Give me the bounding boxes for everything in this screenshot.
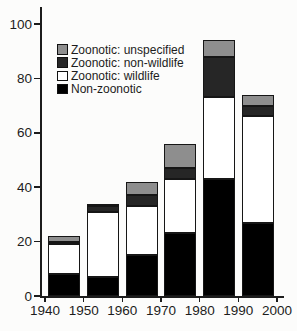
x-tick-label-1980: 1980 bbox=[180, 304, 220, 318]
bar-segment-1970s-zoonotic-wildlife bbox=[164, 179, 196, 233]
bar-segment-1970s-zoonotic-non-wildlife bbox=[164, 168, 196, 179]
y-tick-mark-100 bbox=[34, 23, 40, 25]
legend-item-zoonotic-unspecified: Zoonotic: unspecified bbox=[57, 44, 184, 55]
bar-segment-1960s-zoonotic-wildlife bbox=[126, 206, 158, 255]
bar-segment-1980s-zoonotic-non-wildlife bbox=[203, 57, 235, 98]
legend-label-non-zoonotic: Non-zoonotic bbox=[71, 83, 142, 95]
y-tick-mark-80 bbox=[34, 78, 40, 80]
x-tick-mark-2000 bbox=[276, 298, 278, 303]
x-tick-label-1940: 1940 bbox=[25, 304, 65, 318]
bar-segment-1990s-zoonotic-unspecified bbox=[242, 95, 274, 106]
x-tick-mark-1990 bbox=[238, 298, 240, 303]
legend-swatch-unspecified bbox=[57, 44, 68, 55]
x-tick-mark-1950 bbox=[83, 298, 85, 303]
legend-item-zoonotic-wildlife: Zoonotic: wildlife bbox=[57, 70, 184, 81]
legend-item-zoonotic-non-wildlife: Zoonotic: non-wildlife bbox=[57, 57, 184, 68]
bar-segment-1990s-non-zoonotic bbox=[242, 223, 274, 296]
y-tick-label-60: 60 bbox=[2, 126, 32, 140]
x-tick-mark-1980 bbox=[199, 298, 201, 303]
x-axis-line bbox=[40, 296, 284, 298]
bar-segment-1940s-zoonotic-non-wildlife bbox=[48, 242, 80, 245]
bar-segment-1980s-zoonotic-unspecified bbox=[203, 40, 235, 56]
bar-segment-1960s-zoonotic-unspecified bbox=[126, 182, 158, 196]
y-tick-label-100: 100 bbox=[2, 18, 32, 32]
bar-segment-1960s-zoonotic-non-wildlife bbox=[126, 195, 158, 206]
legend-label-non-wildlife: Zoonotic: non-wildlife bbox=[71, 57, 184, 69]
bar-segment-1950s-zoonotic-wildlife bbox=[87, 212, 119, 277]
legend-swatch-wildlife bbox=[57, 71, 68, 82]
legend-swatch-non-zoonotic bbox=[57, 84, 68, 95]
bar-segment-1990s-zoonotic-wildlife bbox=[242, 116, 274, 222]
y-tick-label-80: 80 bbox=[2, 72, 32, 86]
bar-segment-1950s-non-zoonotic bbox=[87, 277, 119, 296]
legend-label-unspecified: Zoonotic: unspecified bbox=[71, 44, 184, 56]
bar-segment-1970s-non-zoonotic bbox=[164, 233, 196, 296]
eid-stacked-bar-figure: 020406080100 194019501960197019801990200… bbox=[0, 0, 297, 331]
x-tick-mark-1960 bbox=[122, 298, 124, 303]
legend: Zoonotic: unspecified Zoonotic: non-wild… bbox=[57, 44, 184, 97]
legend-swatch-non-wildlife bbox=[57, 57, 68, 68]
x-tick-label-2000: 2000 bbox=[257, 304, 297, 318]
y-tick-mark-40 bbox=[34, 186, 40, 188]
bar-segment-1970s-zoonotic-unspecified bbox=[164, 144, 196, 168]
x-tick-label-1970: 1970 bbox=[141, 304, 181, 318]
bar-segment-1980s-zoonotic-wildlife bbox=[203, 97, 235, 179]
legend-label-wildlife: Zoonotic: wildlife bbox=[71, 70, 160, 82]
bar-segment-1940s-zoonotic-wildlife bbox=[48, 244, 80, 274]
bar-segment-1950s-zoonotic-unspecified bbox=[87, 204, 119, 207]
y-tick-label-20: 20 bbox=[2, 235, 32, 249]
x-tick-mark-1940 bbox=[44, 298, 46, 303]
bar-segment-1960s-non-zoonotic bbox=[126, 255, 158, 296]
y-axis-line bbox=[40, 7, 42, 298]
x-tick-label-1960: 1960 bbox=[102, 304, 142, 318]
plot-area: 020406080100 194019501960197019801990200… bbox=[0, 0, 297, 331]
y-tick-label-40: 40 bbox=[2, 181, 32, 195]
y-tick-mark-0 bbox=[34, 295, 40, 297]
bar-segment-1950s-zoonotic-non-wildlife bbox=[87, 206, 119, 211]
x-tick-mark-1970 bbox=[160, 298, 162, 303]
y-tick-mark-60 bbox=[34, 132, 40, 134]
bar-segment-1940s-non-zoonotic bbox=[48, 274, 80, 296]
bar-segment-1980s-non-zoonotic bbox=[203, 179, 235, 296]
x-tick-label-1990: 1990 bbox=[218, 304, 258, 318]
y-tick-label-0: 0 bbox=[2, 290, 32, 304]
y-tick-mark-20 bbox=[34, 241, 40, 243]
bar-segment-1990s-zoonotic-non-wildlife bbox=[242, 106, 274, 117]
bar-segment-1940s-zoonotic-unspecified bbox=[48, 236, 80, 241]
x-tick-label-1950: 1950 bbox=[64, 304, 104, 318]
legend-item-non-zoonotic: Non-zoonotic bbox=[57, 84, 184, 95]
